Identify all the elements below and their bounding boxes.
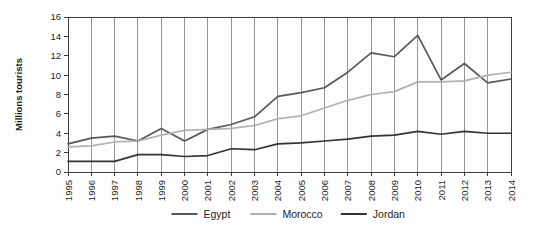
y-tick-label-4: 4 (56, 128, 61, 139)
y-tick-label-10: 10 (50, 70, 61, 81)
x-tick-label-2005: 2005 (296, 180, 307, 201)
legend-label-jordan[interactable]: Jordan (373, 208, 405, 220)
x-tick-label-2006: 2006 (319, 180, 330, 201)
y-tick-label-2: 2 (56, 147, 61, 158)
y-axis-ticks: 0246810121416 (50, 11, 68, 177)
x-tick-label-2009: 2009 (389, 180, 400, 201)
x-tick-label-2013: 2013 (482, 180, 493, 201)
y-tick-label-6: 6 (56, 108, 61, 119)
x-tick-label-2007: 2007 (342, 180, 353, 201)
y-axis-title: Millions tourists (13, 58, 24, 131)
x-tick-label-1995: 1995 (63, 180, 74, 201)
y-axis-title-text: Millions tourists (13, 58, 24, 131)
series-line-morocco (68, 72, 511, 147)
x-tick-label-2012: 2012 (459, 180, 470, 201)
y-tick-label-12: 12 (50, 50, 61, 61)
x-tick-label-1997: 1997 (109, 180, 120, 201)
x-tick-label-2001: 2001 (202, 180, 213, 201)
data-series (68, 35, 511, 161)
y-tick-label-8: 8 (56, 89, 61, 100)
x-tick-label-2002: 2002 (226, 180, 237, 201)
x-tick-label-2003: 2003 (249, 180, 260, 201)
y-tick-label-14: 14 (50, 31, 61, 42)
x-tick-label-2008: 2008 (366, 180, 377, 201)
series-line-egypt (68, 35, 511, 144)
chart-figure: 0246810121416 19951996199719981999200020… (0, 0, 540, 231)
series-line-jordan (68, 131, 511, 161)
x-tick-label-1999: 1999 (156, 180, 167, 201)
x-tick-label-2010: 2010 (412, 180, 423, 201)
legend-label-morocco[interactable]: Morocco (282, 208, 322, 220)
x-tick-label-1998: 1998 (133, 180, 144, 201)
x-tick-label-2014: 2014 (506, 180, 517, 201)
y-tick-label-0: 0 (56, 166, 61, 177)
line-chart: 0246810121416 19951996199719981999200020… (0, 0, 540, 231)
legend-label-egypt[interactable]: Egypt (204, 208, 231, 220)
x-tick-label-2004: 2004 (272, 180, 283, 201)
x-tick-label-2000: 2000 (179, 180, 190, 201)
x-tick-label-2011: 2011 (436, 180, 447, 200)
x-tick-label-1996: 1996 (86, 180, 97, 201)
x-axis-ticks: 1995199619971998199920002001200220032004… (63, 172, 517, 201)
chart-legend[interactable]: EgyptMoroccoJordan (172, 208, 406, 220)
y-tick-label-16: 16 (50, 11, 61, 22)
